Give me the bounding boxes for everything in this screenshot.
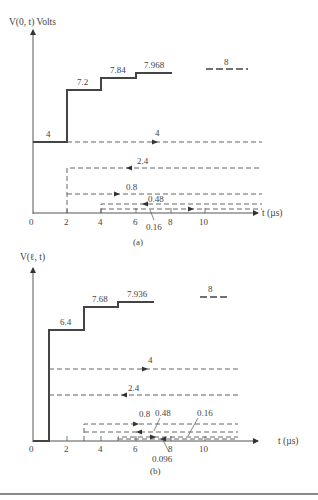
arrow-left-0.48-b — [136, 430, 142, 435]
leader-0.48-b — [154, 418, 160, 431]
x-tick-0-a: 0 — [29, 217, 34, 227]
comp-0.8-label-a: 0.8 — [126, 182, 138, 192]
comp-0.8-label-b: 0.8 — [139, 409, 151, 419]
total-voltage-line-a — [33, 73, 172, 142]
arrow-left-2.4-a — [126, 166, 132, 171]
x-axis-label-a: t (µs) — [262, 208, 283, 219]
x-tick-10-b: 10 — [199, 444, 209, 454]
x-tick-8-b: 8 — [168, 444, 173, 454]
arrow-right-0.8-a — [114, 192, 120, 197]
level-7.84-label-a: 7.84 — [110, 65, 126, 75]
asymptote-label-a: 8 — [224, 57, 229, 67]
level-4-label-a: 4 — [46, 129, 51, 139]
comp-0.16-label-a: 0.16 — [146, 222, 162, 232]
component-2.4-a — [67, 168, 262, 213]
comp-0.48-label-b: 0.48 — [155, 408, 171, 418]
x-tick-6-b: 6 — [133, 444, 138, 454]
asymptote-label-b: 8 — [208, 284, 213, 294]
x-tick-8-a: 8 — [168, 217, 173, 227]
level-7.2-label-a: 7.2 — [77, 77, 88, 87]
chart-panel-b: V(ℓ, t) t (µs) 0 2 4 6 8 10 6.4 7.68 7.9… — [20, 252, 299, 476]
comp-4-label-a: 4 — [155, 128, 160, 138]
total-voltage-line-b — [33, 302, 154, 441]
x-tick-6-a: 6 — [133, 217, 138, 227]
level-7.68-label-b: 7.68 — [92, 294, 108, 304]
comp-0.096-label-b: 0.096 — [152, 454, 173, 464]
comp-2.4-label-b: 2.4 — [128, 383, 140, 393]
level-6.4-label-b: 6.4 — [60, 317, 72, 327]
x-tick-10-a: 10 — [199, 217, 209, 227]
leader-0.16-a — [150, 210, 154, 220]
page-bottom-rule — [0, 493, 318, 495]
chart-panel-a: V(0, t) Volts t (µs) 0 2 4 6 8 10 4 7.2 … — [9, 17, 283, 247]
x-tick-4-b: 4 — [98, 444, 103, 454]
x-axis-label-b: t (µs) — [278, 436, 299, 447]
x-tick-2-a: 2 — [64, 217, 69, 227]
x-ticks-b — [67, 436, 205, 441]
y-axis-label-b: V(ℓ, t) — [20, 252, 45, 263]
x-tick-4-a: 4 — [98, 217, 103, 227]
leader-0.16-b — [188, 418, 198, 436]
caption-a: (a) — [133, 237, 143, 247]
component-0.48-a — [101, 204, 262, 213]
arrow-right-4-b — [142, 367, 148, 372]
comp-4-label-b: 4 — [148, 355, 153, 365]
level-7.968-label-a: 7.968 — [144, 60, 165, 70]
y-axis-label-a: V(0, t) Volts — [9, 17, 56, 28]
x-tick-0-b: 0 — [29, 444, 34, 454]
comp-0.16-label-b: 0.16 — [197, 408, 213, 418]
level-7.936-label-b: 7.936 — [127, 289, 148, 299]
arrow-right-0.16-a — [188, 207, 194, 212]
x-tick-2-b: 2 — [64, 444, 69, 454]
figure-canvas: V(0, t) Volts t (µs) 0 2 4 6 8 10 4 7.2 … — [0, 0, 318, 500]
arrow-right-0.8-b — [133, 422, 139, 427]
arrow-right-4-a — [152, 140, 158, 145]
caption-b: (b) — [150, 466, 161, 476]
arrow-left-2.4-b — [121, 393, 127, 398]
comp-2.4-label-a: 2.4 — [137, 156, 149, 166]
component-0.8-b — [84, 424, 238, 441]
comp-0.48-label-a: 0.48 — [148, 194, 164, 204]
